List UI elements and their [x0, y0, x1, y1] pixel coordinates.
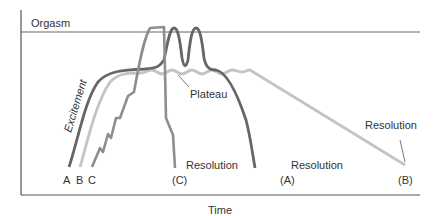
start-label-c: C	[88, 174, 96, 186]
curve-b	[80, 70, 405, 167]
end-label-c: (C)	[172, 174, 187, 186]
end-label-b: (B)	[398, 174, 413, 186]
resolution-a-label: Resolution	[291, 159, 343, 171]
start-label-a: A	[63, 174, 71, 186]
excitement-label: Excitement	[61, 77, 89, 133]
resolution-b-leader-line	[400, 140, 405, 162]
resolution-b-label: Resolution	[365, 119, 417, 131]
plateau-label: Plateau	[190, 88, 227, 100]
sexual-response-diagram: Orgasm Excitement Plateau A B C Resoluti…	[0, 0, 438, 216]
end-label-a: (A)	[280, 174, 295, 186]
orgasm-label: Orgasm	[31, 17, 70, 29]
curve-c	[92, 27, 175, 168]
resolution-c-label: Resolution	[186, 159, 238, 171]
time-axis-label: Time	[208, 204, 232, 216]
plateau-leader-line	[178, 75, 189, 87]
start-label-b: B	[76, 174, 83, 186]
